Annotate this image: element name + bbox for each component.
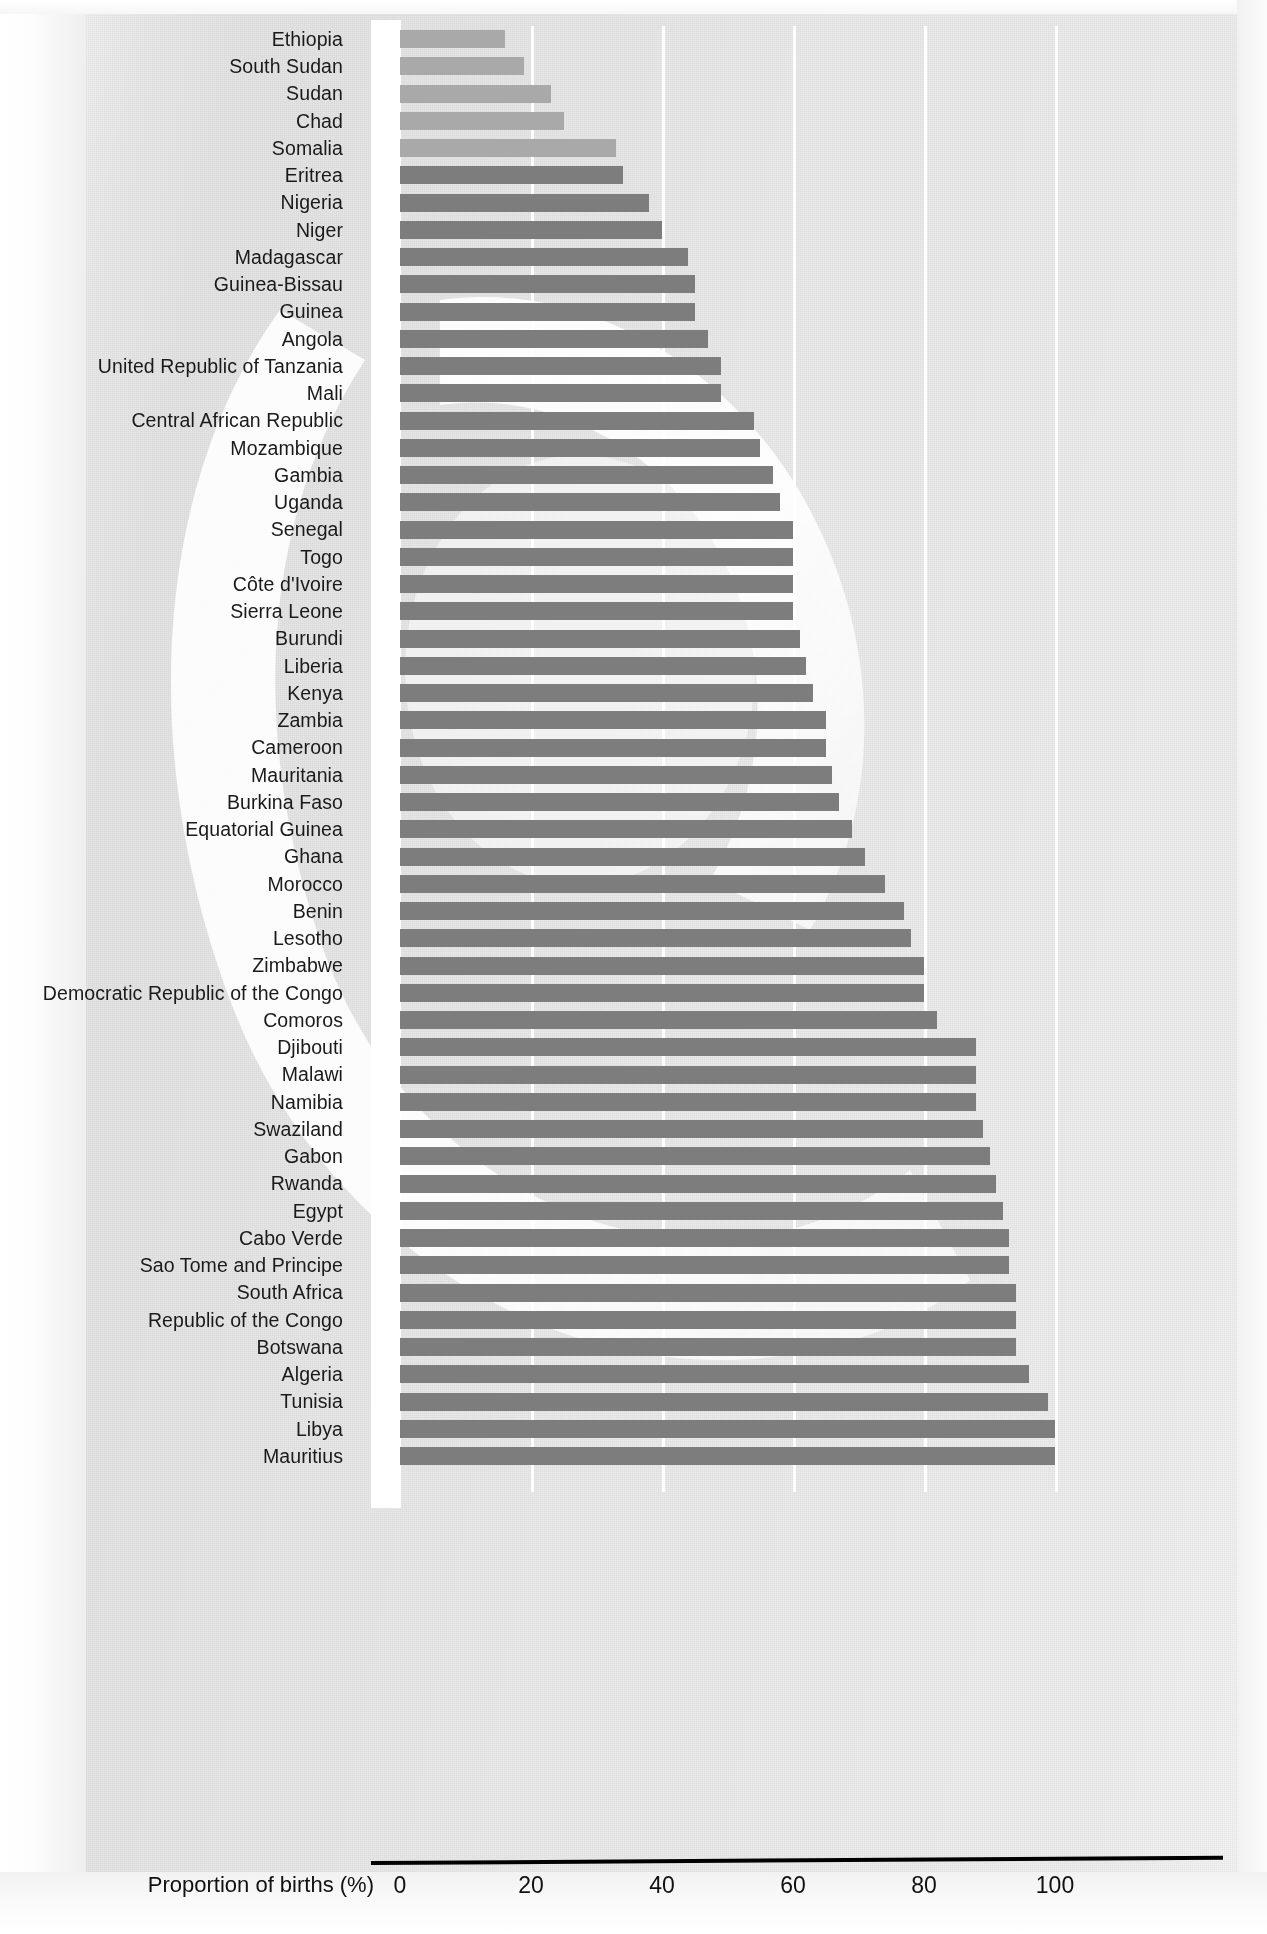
bar-row bbox=[400, 980, 1267, 1007]
category-label-row: Togo bbox=[0, 544, 362, 571]
category-label: United Republic of Tanzania bbox=[98, 357, 343, 377]
category-label-row: Namibia bbox=[0, 1089, 362, 1116]
bar bbox=[400, 602, 793, 620]
bar bbox=[400, 1093, 976, 1111]
category-label-row: Cameroon bbox=[0, 735, 362, 762]
bar-row bbox=[400, 816, 1267, 843]
category-label-row: Sierra Leone bbox=[0, 598, 362, 625]
bar-row bbox=[400, 1171, 1267, 1198]
category-label-row: South Sudan bbox=[0, 53, 362, 80]
category-label: Ghana bbox=[284, 847, 343, 867]
category-label: Rwanda bbox=[271, 1174, 343, 1194]
category-label: Mauritania bbox=[251, 766, 343, 786]
category-label-row: South Africa bbox=[0, 1280, 362, 1307]
category-label-row: Benin bbox=[0, 898, 362, 925]
bar bbox=[400, 875, 885, 893]
category-label: Côte d'Ivoire bbox=[233, 575, 343, 595]
category-label-row: Ethiopia bbox=[0, 26, 362, 53]
bar-row bbox=[400, 1280, 1267, 1307]
category-label-row: Senegal bbox=[0, 517, 362, 544]
category-label: Gambia bbox=[274, 466, 343, 486]
category-label-row: Guinea-Bissau bbox=[0, 271, 362, 298]
bar bbox=[400, 521, 793, 539]
category-label-row: Republic of the Congo bbox=[0, 1307, 362, 1334]
bar-row bbox=[400, 571, 1267, 598]
category-label: Madagascar bbox=[235, 248, 343, 268]
bar bbox=[400, 1147, 990, 1165]
category-label-row: United Republic of Tanzania bbox=[0, 353, 362, 380]
x-tick-60: 60 bbox=[780, 1872, 806, 1899]
bar-row bbox=[400, 789, 1267, 816]
category-label-row: Somalia bbox=[0, 135, 362, 162]
bar-row bbox=[400, 762, 1267, 789]
category-label: Botswana bbox=[257, 1338, 343, 1358]
bar-row bbox=[400, 162, 1267, 189]
category-label-row: Madagascar bbox=[0, 244, 362, 271]
category-label: Mauritius bbox=[263, 1447, 343, 1467]
bar bbox=[400, 112, 564, 130]
bar-row bbox=[400, 81, 1267, 108]
category-label-row: Mauritania bbox=[0, 762, 362, 789]
bar bbox=[400, 657, 806, 675]
bar-row bbox=[400, 135, 1267, 162]
bar bbox=[400, 466, 773, 484]
bar-row bbox=[400, 217, 1267, 244]
category-label-row: Chad bbox=[0, 108, 362, 135]
category-label-row: Kenya bbox=[0, 680, 362, 707]
bar-row bbox=[400, 1252, 1267, 1279]
x-tick-40: 40 bbox=[649, 1872, 675, 1899]
category-label: Nigeria bbox=[281, 193, 343, 213]
category-label: Burkina Faso bbox=[227, 793, 343, 813]
category-label-row: Liberia bbox=[0, 653, 362, 680]
bar-row bbox=[400, 380, 1267, 407]
category-label: Swaziland bbox=[253, 1120, 343, 1140]
category-label-row: Guinea bbox=[0, 299, 362, 326]
category-label: Liberia bbox=[284, 657, 343, 677]
category-label: South Sudan bbox=[229, 57, 343, 77]
category-label: Cameroon bbox=[251, 738, 343, 758]
x-tick-20: 20 bbox=[518, 1872, 544, 1899]
bar bbox=[400, 1066, 976, 1084]
category-label-row: Zimbabwe bbox=[0, 953, 362, 980]
category-label: Sudan bbox=[286, 84, 343, 104]
bar-row bbox=[400, 653, 1267, 680]
chart-page: EthiopiaSouth SudanSudanChadSomaliaEritr… bbox=[0, 0, 1267, 1934]
bar-row bbox=[400, 462, 1267, 489]
category-label: Togo bbox=[300, 548, 343, 568]
bar-row bbox=[400, 299, 1267, 326]
category-label-row: Malawi bbox=[0, 1062, 362, 1089]
bar bbox=[400, 575, 793, 593]
category-label: Zambia bbox=[277, 711, 343, 731]
category-label: Sierra Leone bbox=[230, 602, 343, 622]
bar-row bbox=[400, 489, 1267, 516]
category-label: Libya bbox=[296, 1420, 343, 1440]
bar bbox=[400, 630, 800, 648]
category-label: Democratic Republic of the Congo bbox=[43, 984, 343, 1004]
category-label-row: Mali bbox=[0, 380, 362, 407]
bar-row bbox=[400, 1116, 1267, 1143]
category-label: Mozambique bbox=[230, 439, 343, 459]
category-label-row: Algeria bbox=[0, 1361, 362, 1388]
bar bbox=[400, 1038, 976, 1056]
bar bbox=[400, 166, 623, 184]
category-label: Senegal bbox=[271, 520, 343, 540]
bar-row bbox=[400, 1443, 1267, 1470]
bar bbox=[400, 793, 839, 811]
category-label-row: Gambia bbox=[0, 462, 362, 489]
bar bbox=[400, 1229, 1009, 1247]
category-label-row: Lesotho bbox=[0, 925, 362, 952]
category-label: Somalia bbox=[272, 139, 343, 159]
bar-row bbox=[400, 871, 1267, 898]
bar-row bbox=[400, 1062, 1267, 1089]
category-label: Uganda bbox=[274, 493, 343, 513]
bar bbox=[400, 684, 813, 702]
bar-row bbox=[400, 626, 1267, 653]
category-label-row: Zambia bbox=[0, 707, 362, 734]
bar bbox=[400, 194, 649, 212]
bar-row bbox=[400, 108, 1267, 135]
category-label: Eritrea bbox=[285, 166, 343, 186]
category-label-row: Djibouti bbox=[0, 1034, 362, 1061]
bar-row bbox=[400, 953, 1267, 980]
category-label: Angola bbox=[282, 330, 343, 350]
bar-row bbox=[400, 1334, 1267, 1361]
